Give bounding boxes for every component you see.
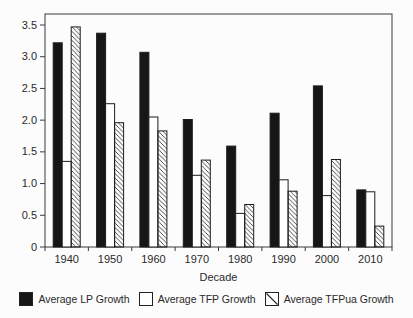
x-axis-title: Decade: [45, 271, 392, 283]
bar-white: [279, 180, 288, 247]
y-tick-label: 0.5: [22, 209, 37, 221]
legend-swatch-white: [139, 292, 153, 306]
bar-solid-black: [183, 120, 192, 248]
figure-container: 00.51.01.52.02.53.03.5194019501960197019…: [0, 0, 413, 318]
bar-white: [322, 196, 331, 247]
y-tick-label: 1.0: [22, 177, 37, 189]
bar-diagonal-hatch: [115, 123, 124, 247]
bar-solid-black: [313, 86, 322, 247]
y-tick-label: 2.5: [22, 82, 37, 94]
x-tick-label: 1970: [185, 253, 209, 265]
legend-item-tfp-growth: Average TFP Growth: [139, 292, 256, 306]
bar-white: [62, 161, 71, 247]
bar-solid-black: [227, 146, 236, 247]
legend: Average LP Growth Average TFP Growth Ave…: [0, 292, 413, 306]
bar-diagonal-hatch: [158, 131, 167, 247]
bar-white: [106, 104, 115, 247]
legend-label-lp-growth: Average LP Growth: [38, 293, 129, 305]
y-tick-label: 1.5: [22, 145, 37, 157]
legend-swatch-solid-black: [19, 292, 33, 306]
legend-label-tfpua-growth: Average TFPua Growth: [284, 293, 394, 305]
legend-swatch-diagonal-hatch: [265, 292, 279, 306]
bar-diagonal-hatch: [245, 205, 254, 248]
x-tick-label: 1960: [141, 253, 165, 265]
x-tick-label: 1950: [98, 253, 122, 265]
bar-diagonal-hatch: [331, 160, 340, 248]
bar-diagonal-hatch: [375, 226, 384, 247]
bar-diagonal-hatch: [71, 27, 80, 247]
bar-chart: 00.51.01.52.02.53.03.5194019501960197019…: [0, 0, 413, 290]
bar-white: [366, 192, 375, 247]
legend-item-tfpua-growth: Average TFPua Growth: [265, 292, 394, 306]
bar-white: [192, 175, 201, 247]
x-tick-label: 1980: [228, 253, 252, 265]
bar-solid-black: [140, 52, 149, 247]
legend-label-tfp-growth: Average TFP Growth: [158, 293, 256, 305]
bar-solid-black: [357, 190, 366, 247]
bar-solid-black: [270, 113, 279, 247]
bar-white: [149, 117, 158, 247]
y-tick-label: 3.5: [22, 19, 37, 31]
y-tick-label: 3.0: [22, 50, 37, 62]
x-tick-label: 2010: [358, 253, 382, 265]
bar-solid-black: [97, 33, 106, 247]
bar-diagonal-hatch: [288, 191, 297, 247]
x-tick-label: 1990: [271, 253, 295, 265]
bar-white: [236, 213, 245, 247]
y-tick-label: 0: [31, 241, 37, 253]
x-tick-label: 2000: [315, 253, 339, 265]
bar-solid-black: [53, 43, 62, 247]
legend-item-lp-growth: Average LP Growth: [19, 292, 129, 306]
y-tick-label: 2.0: [22, 114, 37, 126]
bar-diagonal-hatch: [201, 160, 210, 247]
diagonal-line-icon: [266, 293, 278, 305]
x-tick-label: 1940: [54, 253, 78, 265]
chart-canvas: 00.51.01.52.02.53.03.5194019501960197019…: [22, 14, 392, 265]
